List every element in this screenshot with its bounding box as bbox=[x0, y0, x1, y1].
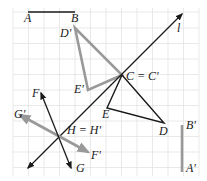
label-b-prime: B' bbox=[186, 118, 196, 132]
label-g-prime: G' bbox=[14, 107, 26, 121]
line-l bbox=[28, 14, 182, 168]
label-d-prime: D' bbox=[59, 26, 72, 40]
label-a: A bbox=[23, 11, 32, 25]
label-f-prime: F' bbox=[90, 148, 101, 162]
label-h-eq-h-prime: H = H' bbox=[66, 123, 101, 137]
label-d: D bbox=[158, 124, 168, 138]
label-f: F bbox=[31, 86, 40, 100]
label-c-eq-c-prime: C = C' bbox=[126, 69, 159, 83]
label-e: E bbox=[101, 107, 110, 121]
transformation-diagram: A B D' l C = C' E' E D B' A' F G' H = H'… bbox=[0, 0, 207, 181]
label-b: B bbox=[71, 11, 79, 25]
grid bbox=[13, 8, 199, 176]
label-g: G bbox=[76, 161, 85, 175]
label-a-prime: A' bbox=[185, 161, 196, 175]
label-e-prime: E' bbox=[73, 82, 84, 96]
